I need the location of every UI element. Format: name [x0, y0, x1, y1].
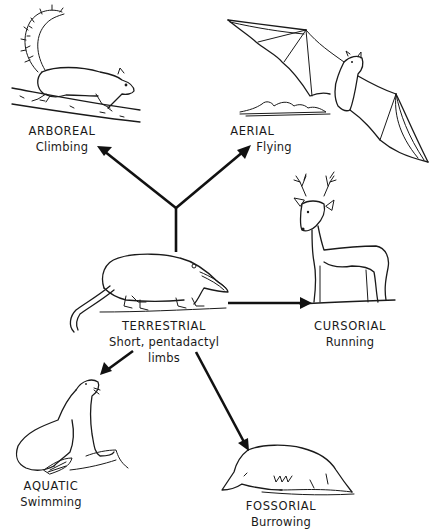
- sea-lion-illustration: [16, 380, 128, 474]
- node-subtitle: Burrowing: [246, 514, 316, 530]
- arrowhead-cursorial: [300, 297, 312, 309]
- squirrel-illustration: [12, 5, 140, 122]
- node-title: FOSSORIAL: [246, 498, 316, 514]
- node-subtitle-line2: limbs: [109, 350, 219, 366]
- node-title: ARBOREAL: [29, 123, 96, 139]
- node-title: AQUATIC: [20, 478, 82, 494]
- node-subtitle: Flying: [256, 139, 292, 155]
- node-subtitle: Running: [314, 334, 386, 350]
- deer-illustration: [294, 172, 395, 304]
- node-cursorial: CURSORIAL Running: [314, 318, 386, 350]
- arrow-to-aerial: [176, 151, 244, 208]
- node-subtitle: Climbing: [29, 139, 96, 155]
- node-aquatic: AQUATIC Swimming: [20, 478, 82, 510]
- node-title: CURSORIAL: [314, 318, 386, 334]
- mole-illustration: [222, 445, 354, 495]
- arrow-to-arboreal: [104, 151, 176, 208]
- node-subtitle: Swimming: [20, 494, 82, 510]
- node-title: TERRESTRIAL: [109, 318, 219, 334]
- node-fossorial: FOSSORIAL Burrowing: [246, 498, 316, 530]
- branching-arrows: [97, 145, 312, 451]
- node-arboreal: ARBOREAL Climbing: [29, 123, 96, 155]
- diagram-canvas: [0, 0, 435, 531]
- node-title: AERIAL: [230, 123, 292, 139]
- node-aerial: AERIAL Flying: [244, 123, 292, 155]
- node-subtitle-line1: Short, pentadactyl: [109, 334, 219, 350]
- node-terrestrial: TERRESTRIAL Short, pentadactyl limbs: [109, 318, 219, 366]
